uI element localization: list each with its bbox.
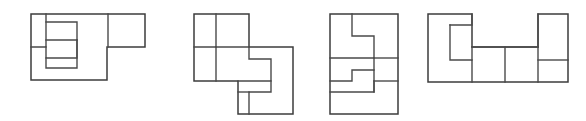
figure-2-divider-1 xyxy=(194,14,216,47)
figure-3-divider-2 xyxy=(330,70,374,92)
figure-1 xyxy=(31,14,145,80)
figure-4-divider-2 xyxy=(450,25,472,82)
figure-4-outline xyxy=(428,14,568,82)
figure-3 xyxy=(330,14,398,114)
figure-2-outline xyxy=(194,14,293,114)
figure-canvas xyxy=(0,0,586,121)
figure-panel xyxy=(0,0,586,121)
figure-1-divider-2 xyxy=(31,14,46,47)
figure-3-outline xyxy=(330,14,398,114)
figure-2 xyxy=(194,14,293,114)
figure-1-divider-3 xyxy=(46,22,77,40)
figure-3-divider-1 xyxy=(330,14,374,58)
figure-1-divider-5 xyxy=(46,40,77,68)
figure-4-divider-1 xyxy=(450,14,472,25)
figure-2-divider-5 xyxy=(249,81,271,114)
figure-4 xyxy=(428,14,568,82)
figure-1-divider-4 xyxy=(46,40,77,58)
figure-2-divider-4 xyxy=(238,47,271,81)
figure-1-outline xyxy=(31,14,145,80)
